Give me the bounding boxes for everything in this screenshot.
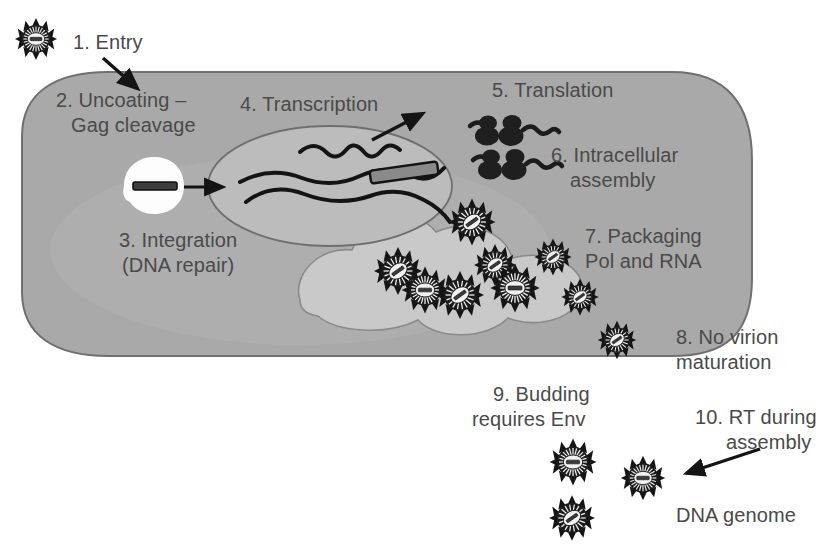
step-2-label-line2: Gag cleavage <box>71 113 196 138</box>
step-10-label-line1: 10. RT during <box>695 405 817 430</box>
step-9-label-line2: requires Env <box>472 407 585 432</box>
diagram-canvas: 1. Entry 2. Uncoating – Gag cleavage 3. … <box>0 0 838 551</box>
capsid-genome-bar <box>133 182 177 190</box>
step-6-label-line2: assembly <box>570 168 655 193</box>
step-4-label: 4. Transcription <box>240 92 378 117</box>
entering-virion <box>15 18 57 60</box>
released-virion <box>550 439 597 486</box>
nucleus <box>208 126 452 246</box>
released-virion <box>621 456 665 500</box>
step-1-label: 1. Entry <box>73 30 143 55</box>
released-virion <box>549 495 595 541</box>
step-6-label-line1: 6. Intracellular <box>551 143 678 168</box>
released-virion-group <box>549 439 665 541</box>
step-2-label-line1: 2. Uncoating – <box>56 88 186 113</box>
step-8-label-line2: maturation <box>676 350 772 375</box>
step-9-label-line1: 9. Budding <box>493 382 590 407</box>
step-10-label-line2: assembly <box>726 430 811 455</box>
dna-genome-label: DNA genome <box>676 503 796 528</box>
step-3-label-line1: 3. Integration <box>119 228 237 253</box>
step-7-label-line1: 7. Packaging <box>585 224 702 249</box>
step-5-label: 5. Translation <box>492 78 613 103</box>
step-8-label-line1: 8. No virion <box>676 325 778 350</box>
step-7-label-line2: Pol and RNA <box>585 249 702 274</box>
step-3-label-line2: (DNA repair) <box>122 253 234 278</box>
